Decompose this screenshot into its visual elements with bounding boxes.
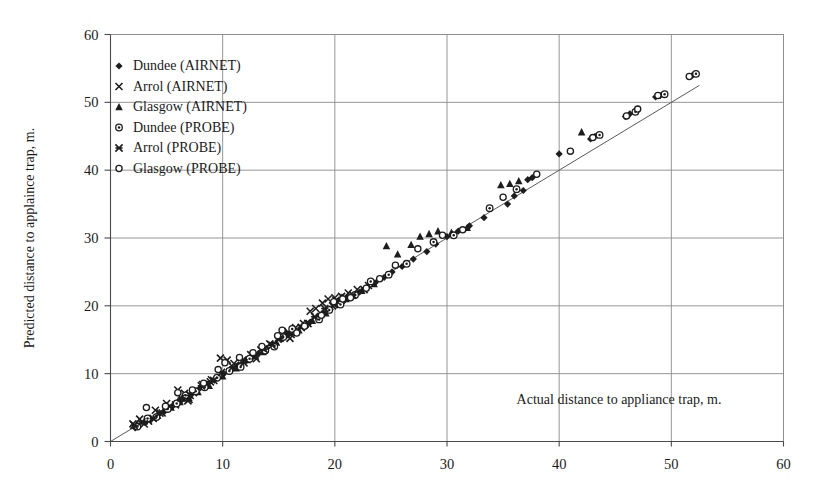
data-point-circle-dot bbox=[248, 357, 251, 360]
x-tick-label: 60 bbox=[776, 456, 791, 472]
legend-item-label: Dundee (AIRNET) bbox=[133, 58, 241, 74]
data-point-open-circle bbox=[222, 360, 228, 366]
x-tick-label: 0 bbox=[107, 456, 114, 472]
x-axis-title: Actual distance to appliance trap, m. bbox=[517, 392, 722, 407]
x-tick-label: 30 bbox=[440, 456, 455, 472]
data-point-open-circle bbox=[143, 404, 149, 410]
data-point-filled-triangle bbox=[407, 241, 415, 248]
data-point-circle-dot bbox=[175, 402, 178, 405]
data-point-open-circle bbox=[567, 148, 573, 154]
data-point-open-circle bbox=[347, 295, 353, 301]
data-point-asterisk bbox=[115, 144, 122, 151]
data-point-open-circle bbox=[250, 350, 256, 356]
data-point-filled-diamond bbox=[480, 214, 487, 221]
legend-item-label: Glasgow (PROBE) bbox=[133, 161, 241, 177]
data-point-circle-dot bbox=[432, 241, 435, 244]
data-point-circle-dot bbox=[387, 273, 390, 276]
data-point-circle-dot bbox=[291, 328, 294, 331]
data-point-cross-x bbox=[116, 83, 123, 90]
data-point-filled-triangle bbox=[115, 103, 123, 110]
axis-titles: Predicted distance to applaince trap, m.… bbox=[22, 128, 721, 407]
data-point-open-circle bbox=[340, 296, 346, 302]
legend: Dundee (AIRNET)Arrol (AIRNET)Glasgow (AI… bbox=[115, 58, 247, 177]
y-tick-label: 20 bbox=[84, 298, 99, 314]
data-point-filled-triangle bbox=[383, 242, 391, 249]
legend-item-label: Arrol (AIRNET) bbox=[133, 79, 228, 95]
legend-item-4: Arrol (PROBE) bbox=[115, 140, 221, 156]
data-point-open-circle bbox=[236, 354, 242, 360]
legend-item-3: Dundee (PROBE) bbox=[116, 120, 235, 136]
y-tick-label: 10 bbox=[84, 366, 99, 382]
data-point-circle-dot bbox=[328, 309, 331, 312]
legend-item-0: Dundee (AIRNET) bbox=[115, 58, 241, 74]
data-point-open-circle bbox=[439, 232, 445, 238]
legend-item-label: Glasgow (AIRNET) bbox=[133, 99, 247, 115]
data-point-filled-triangle bbox=[497, 181, 505, 188]
data-point-circle-dot bbox=[515, 188, 518, 191]
data-point-circle-dot bbox=[146, 417, 149, 420]
data-point-open-circle bbox=[655, 92, 661, 98]
data-point-filled-triangle bbox=[416, 233, 424, 240]
legend-item-2: Glasgow (AIRNET) bbox=[115, 99, 247, 115]
data-point-filled-triangle bbox=[394, 250, 402, 257]
legend-item-1: Arrol (AIRNET) bbox=[116, 79, 228, 95]
data-point-circle-dot bbox=[598, 134, 601, 137]
y-tick-label: 40 bbox=[84, 162, 99, 178]
data-point-open-circle bbox=[623, 113, 629, 119]
x-tick-label: 40 bbox=[552, 456, 567, 472]
y-tick-label: 30 bbox=[84, 230, 99, 246]
x-tick-label: 50 bbox=[664, 456, 679, 472]
y-axis-title: Predicted distance to applaince trap, m. bbox=[22, 128, 37, 348]
data-point-circle-dot bbox=[488, 207, 491, 210]
data-point-open-circle bbox=[275, 333, 281, 339]
x-tick-label: 20 bbox=[328, 456, 343, 472]
data-point-open-circle bbox=[175, 390, 181, 396]
data-point-open-circle bbox=[534, 171, 540, 177]
data-point-circle-dot bbox=[369, 280, 372, 283]
data-point-open-circle bbox=[635, 106, 641, 112]
data-point-filled-triangle bbox=[506, 180, 514, 187]
data-point-circle-dot bbox=[405, 263, 408, 266]
data-point-open-circle bbox=[500, 194, 506, 200]
data-point-open-circle bbox=[377, 276, 383, 282]
data-point-filled-triangle bbox=[425, 230, 433, 237]
data-point-open-circle bbox=[301, 323, 307, 329]
data-point-circle-dot bbox=[452, 234, 455, 237]
data-point-asterisk bbox=[311, 313, 318, 320]
data-point-open-circle bbox=[686, 73, 692, 79]
data-point-open-circle bbox=[116, 165, 122, 171]
data-point-open-circle bbox=[415, 246, 421, 252]
data-point-open-circle bbox=[279, 327, 285, 333]
data-point-open-circle bbox=[200, 380, 206, 386]
data-point-filled-triangle bbox=[515, 177, 523, 184]
data-point-open-circle bbox=[392, 262, 398, 268]
data-point-open-circle bbox=[294, 330, 300, 336]
data-point-open-circle bbox=[331, 299, 337, 305]
data-point-filled-diamond bbox=[556, 150, 563, 157]
data-point-circle-dot bbox=[663, 93, 666, 96]
legend-item-label: Arrol (PROBE) bbox=[133, 140, 222, 156]
data-point-circle-dot bbox=[695, 73, 698, 76]
data-point-open-circle bbox=[318, 312, 324, 318]
data-point-circle-dot bbox=[118, 126, 121, 129]
data-point-open-circle bbox=[189, 387, 195, 393]
y-tick-label: 60 bbox=[84, 27, 99, 43]
chart-svg: 01020304050600102030405060 Dundee (AIRNE… bbox=[0, 0, 820, 494]
data-point-open-circle bbox=[590, 135, 596, 141]
data-point-open-circle bbox=[162, 403, 168, 409]
legend-item-5: Glasgow (PROBE) bbox=[116, 161, 241, 177]
data-point-open-circle bbox=[460, 227, 466, 233]
y-tick-label: 0 bbox=[91, 434, 98, 450]
x-tick-label: 10 bbox=[215, 456, 230, 472]
data-point-filled-diamond bbox=[115, 62, 122, 69]
data-point-filled-triangle bbox=[578, 128, 586, 135]
scatter-plot-figure: 01020304050600102030405060 Dundee (AIRNE… bbox=[0, 0, 820, 494]
data-point-filled-diamond bbox=[504, 200, 511, 207]
y-tick-label: 50 bbox=[84, 94, 99, 110]
legend-item-label: Dundee (PROBE) bbox=[133, 120, 235, 136]
data-point-open-circle bbox=[215, 366, 221, 372]
data-point-open-circle bbox=[363, 285, 369, 291]
data-point-open-circle bbox=[259, 343, 265, 349]
